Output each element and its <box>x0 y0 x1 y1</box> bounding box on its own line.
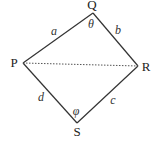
side-label-b: b <box>115 23 121 37</box>
angle-label-theta: θ <box>88 17 94 31</box>
vertex-label-r: R <box>142 59 151 74</box>
side-label-a: a <box>51 24 57 38</box>
side-label-d: d <box>38 90 45 104</box>
side-qr <box>93 13 138 66</box>
angle-label-phi: φ <box>73 104 80 118</box>
angle-labels: θ φ <box>73 17 94 118</box>
vertex-label-q: Q <box>87 0 97 12</box>
side-label-c: c <box>110 93 116 107</box>
vertex-label-p: P <box>10 55 17 70</box>
vertex-label-s: S <box>73 124 80 139</box>
side-pq <box>23 13 93 63</box>
diagonal-pr <box>23 63 138 66</box>
side-sp <box>23 63 77 123</box>
side-rs <box>77 66 138 123</box>
side-labels: a b c d <box>38 23 121 107</box>
vertex-labels: Q P R S <box>10 0 150 139</box>
quadrilateral-diagram: Q P R S a b c d θ φ <box>0 0 161 141</box>
